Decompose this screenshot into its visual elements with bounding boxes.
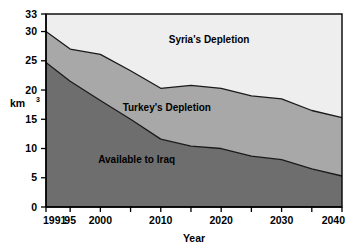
x-tick-label: 1991	[43, 214, 67, 226]
y-tick-label: 0	[31, 201, 37, 213]
x-tick-label: 2000	[89, 214, 113, 226]
y-axis: 05101520253033	[25, 8, 46, 213]
y-axis-title-text: km	[10, 97, 25, 109]
x-tick-label: 95	[64, 214, 76, 226]
y-tick-label: 5	[31, 171, 37, 183]
y-tick-label: 25	[25, 54, 37, 66]
x-axis: 19919520002010202020302040	[43, 207, 345, 226]
area-chart: 05101520253033 1991952000201020202030204…	[0, 0, 359, 248]
x-tick-label: 2030	[270, 214, 294, 226]
x-tick-label: 2010	[149, 214, 173, 226]
y-tick-label: 15	[25, 113, 37, 125]
y-axis-title-superscript: 3	[36, 96, 40, 103]
chart-container: 05101520253033 1991952000201020202030204…	[0, 0, 359, 248]
y-tick-label: 30	[25, 25, 37, 37]
y-tick-label: 33	[25, 8, 37, 20]
x-axis-title: Year	[183, 232, 205, 244]
series-label: Turkey's Depletion	[123, 102, 211, 113]
y-axis-title: km 3	[10, 96, 40, 109]
series-label: Syria's Depletion	[169, 34, 250, 45]
y-tick-label: 20	[25, 84, 37, 96]
x-tick-label: 2020	[210, 214, 234, 226]
x-tick-label: 2040	[322, 214, 346, 226]
series-label: Available to Iraq	[98, 154, 175, 165]
y-tick-label: 10	[25, 142, 37, 154]
